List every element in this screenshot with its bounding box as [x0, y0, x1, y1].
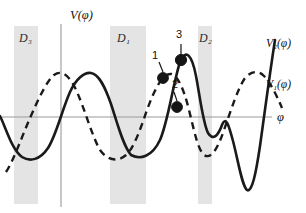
point-marker-1 — [158, 73, 169, 84]
curve-label-v1: V₁(φ) — [266, 79, 291, 91]
point-label-2: 2 — [172, 79, 178, 90]
point-marker-2 — [172, 102, 183, 113]
curve-label-v2: V₂(φ) — [266, 38, 291, 50]
x-axis-label: φ — [277, 111, 284, 124]
leader-point-1 — [159, 62, 163, 72]
point-label-1: 1 — [152, 50, 158, 61]
domain-label-d3: D₃ — [19, 32, 32, 44]
point-marker-3 — [175, 54, 186, 65]
domain-band-d2 — [198, 26, 212, 204]
domain-bands — [14, 26, 212, 204]
potential-energy-figure: V(φ) φ D₃ D₁ D₂ V₂(φ) V₁(φ) 1 3 2 — [0, 0, 306, 213]
domain-band-d3 — [14, 26, 38, 204]
leader-point-2 — [174, 92, 177, 101]
y-axis-label: V(φ) — [70, 9, 93, 22]
point-label-3: 3 — [176, 29, 182, 40]
plot-canvas — [0, 0, 306, 213]
domain-label-d1: D₁ — [117, 32, 130, 44]
domain-label-d2: D₂ — [199, 32, 212, 44]
